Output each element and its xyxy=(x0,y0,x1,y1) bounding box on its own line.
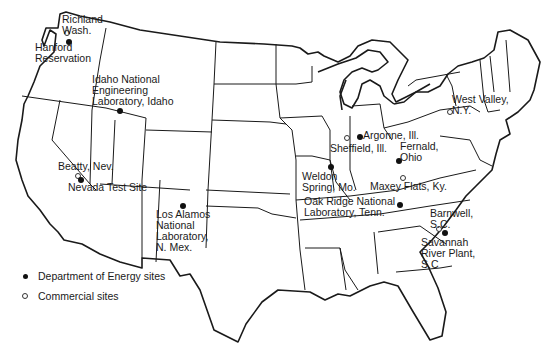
label-maxey: Maxey Flats, Ky. xyxy=(370,181,447,192)
legend-item-doe: Department of Energy sites xyxy=(18,266,165,286)
label-idaho: Idaho National Engineering Laboratory, I… xyxy=(92,74,174,107)
legend: Department of Energy sites Commercial si… xyxy=(18,266,165,306)
label-westvalley: West Valley, N.Y. xyxy=(452,94,509,116)
label-weldon: Weldon Spring, Mo. xyxy=(302,171,356,193)
label-fernald: Fernald, Ohio xyxy=(400,141,439,163)
label-hanford: Hanford Reservation xyxy=(35,42,91,64)
marker-oakridge xyxy=(397,202,403,208)
legend-label-doe: Department of Energy sites xyxy=(38,270,165,282)
label-richland: Richland Wash. xyxy=(62,14,103,36)
label-beatty: Beatty, Nev. xyxy=(58,161,114,172)
label-savannah: Savannah River Plant, S.C xyxy=(421,237,475,270)
label-losalamos: Los Alamos National Laboratory, N. Mex. xyxy=(156,209,210,253)
legend-label-commercial: Commercial sites xyxy=(38,290,119,302)
filled-dot-icon xyxy=(18,274,32,279)
open-dot-icon xyxy=(18,293,32,299)
marker-idaho xyxy=(117,108,123,114)
label-barnwell: Barnwell, S.C. xyxy=(430,208,473,230)
legend-item-commercial: Commercial sites xyxy=(18,286,165,306)
label-nevada: Nevada Test Site xyxy=(68,182,147,193)
label-sheffield: Sheffield, Ill. xyxy=(330,143,387,154)
marker-sheffield xyxy=(344,135,350,141)
label-oakridge: Oak Ridge National Laboratory, Tenn. xyxy=(304,196,395,218)
